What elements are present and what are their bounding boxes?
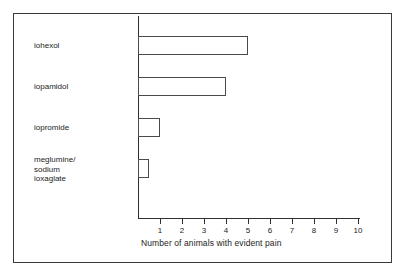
bar-chart-plot-area: iohexol iopamidol iopromide meglumine/ s… [0,0,406,275]
value-axis-line [138,218,360,219]
x-tick-label-6: 6 [260,226,280,236]
x-tick-label-10: 10 [348,226,368,236]
x-tick-label-4: 4 [216,226,236,236]
bar-meglumine-sodium-ioxaglate [138,159,149,178]
x-tick-label-2: 2 [172,226,192,236]
x-tick-label-7: 7 [282,226,302,236]
x-axis-title: Number of animals with evident pain [141,238,282,248]
x-tick-5 [248,219,249,224]
x-tick-6 [270,219,271,224]
bar-iopromide [138,118,160,137]
x-tick-4 [226,219,227,224]
figure: iohexol iopamidol iopromide meglumine/ s… [0,0,406,275]
bar-iopamidol [138,77,226,96]
x-tick-label-9: 9 [326,226,346,236]
category-label-iopamidol: iopamidol [34,82,68,92]
x-tick-1 [160,219,161,224]
x-tick-label-5: 5 [238,226,258,236]
x-tick-label-1: 1 [150,226,170,236]
category-label-iopromide: iopromide [34,123,69,133]
bar-iohexol [138,36,248,55]
x-tick-7 [292,219,293,224]
category-label-meglumine-sodium-ioxaglate: meglumine/ sodium ioxaglate [34,155,75,184]
x-tick-label-8: 8 [304,226,324,236]
x-tick-3 [204,219,205,224]
x-tick-2 [182,219,183,224]
category-label-iohexol: iohexol [34,41,59,51]
x-tick-9 [336,219,337,224]
x-tick-label-3: 3 [194,226,214,236]
x-tick-10 [358,219,359,224]
x-tick-8 [314,219,315,224]
